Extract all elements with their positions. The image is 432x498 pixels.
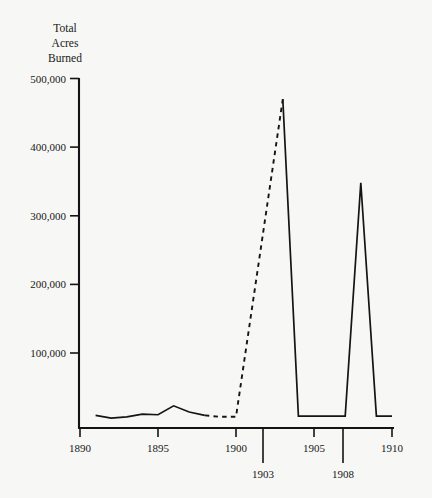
y-tick-label-300000: 300,000 bbox=[30, 210, 66, 222]
chart-axis-title: Total Acres Burned bbox=[48, 22, 82, 64]
data-line-recorded-peaks bbox=[283, 99, 392, 416]
y-tick-label-100000: 100,000 bbox=[30, 347, 66, 359]
y-tick-label-200000: 200,000 bbox=[30, 278, 66, 290]
axis-title-line-2: Acres bbox=[52, 37, 79, 49]
x-tick-label-1895: 1895 bbox=[147, 442, 170, 454]
y-axis-ticks: 500,000 400,000 300,000 200,000 100,000 bbox=[30, 73, 79, 360]
axis-title-line-3: Burned bbox=[48, 52, 82, 64]
x-tick-label-1908: 1908 bbox=[332, 468, 355, 480]
x-tick-label-1900: 1900 bbox=[225, 442, 248, 454]
chart-container: Total Acres Burned 500,000 400,000 300,0… bbox=[0, 0, 432, 498]
x-tick-label-1903: 1903 bbox=[252, 468, 275, 480]
axis-title-line-1: Total bbox=[53, 22, 76, 34]
x-tick-label-1905: 1905 bbox=[303, 442, 326, 454]
y-tick-label-500000: 500,000 bbox=[30, 73, 66, 85]
x-tick-label-1910: 1910 bbox=[381, 442, 404, 454]
data-line-recorded-early bbox=[96, 406, 205, 418]
y-tick-label-400000: 400,000 bbox=[30, 141, 66, 153]
data-line-estimated-dashed bbox=[205, 99, 283, 417]
x-tick-label-1890: 1890 bbox=[69, 442, 92, 454]
acres-burned-line-chart: Total Acres Burned 500,000 400,000 300,0… bbox=[0, 0, 432, 498]
x-axis-ticks: 1890 1895 1900 1905 1910 bbox=[69, 428, 404, 454]
x-axis-peak-ticks: 1903 1908 bbox=[252, 428, 355, 480]
